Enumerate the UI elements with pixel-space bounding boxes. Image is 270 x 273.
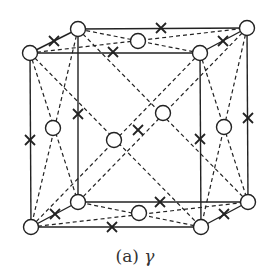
face-diagonals: [30, 28, 248, 227]
corner-atom-icon: [194, 220, 209, 235]
corner-atom-icon: [23, 46, 38, 61]
figure-caption: (a) γ: [0, 246, 270, 266]
cube-edge: [247, 28, 248, 202]
face-center-atom-icon: [217, 120, 232, 135]
face-center-atom-icon: [131, 34, 146, 49]
gamma-crystal-structure: [0, 0, 270, 273]
corner-atom-icon: [241, 195, 256, 210]
caption-symbol: γ: [144, 246, 154, 266]
face-center-atom-icon: [107, 133, 122, 148]
corner-atom-icon: [193, 46, 208, 61]
corner-atom-icon: [71, 22, 86, 37]
cube-edges: [30, 28, 248, 227]
corner-atom-icon: [24, 220, 39, 235]
corner-atom-icon: [240, 21, 255, 36]
face-center-atom-icon: [156, 106, 171, 121]
caption-label: (a): [116, 246, 139, 266]
face-center-atom-icon: [132, 206, 147, 221]
corner-atom-icon: [71, 195, 86, 210]
face-center-atom-icon: [46, 121, 61, 136]
